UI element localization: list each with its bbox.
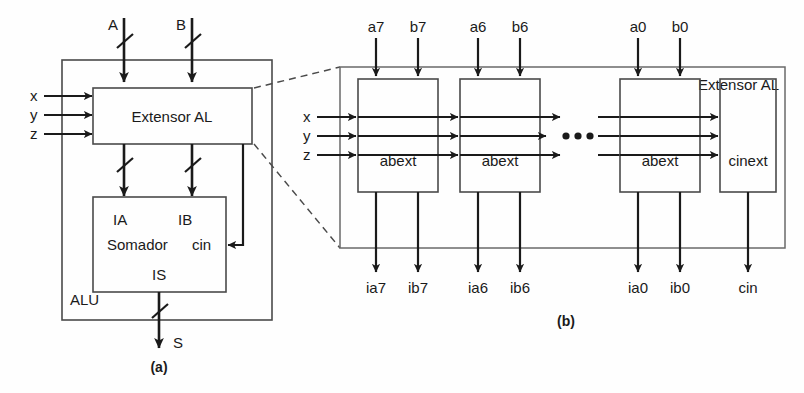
input-label-a7: a7 — [368, 18, 385, 35]
slice-6: abext a6 b6 ia6 ib6 — [460, 18, 540, 296]
input-label-z-a: z — [30, 125, 38, 142]
dashed-connector-top — [254, 67, 340, 88]
output-label-ib6: ib6 — [510, 279, 530, 296]
slice-7: abext a7 b7 ia7 ib7 — [358, 18, 438, 296]
output-label-ib7: ib7 — [408, 279, 428, 296]
extensor-al-label-a: Extensor AL — [132, 108, 213, 125]
output-label-ia7: ia7 — [366, 279, 386, 296]
output-label-cin: cin — [738, 279, 757, 296]
panel-b: Extensor AL x y z abext a7 b7 ia7 ib7 a — [303, 18, 785, 329]
input-label-a0: a0 — [630, 18, 647, 35]
input-label-x-b: x — [303, 108, 311, 125]
somador-port-ib: IB — [178, 211, 192, 228]
input-label-b7: b7 — [410, 18, 427, 35]
somador-port-is: IS — [152, 266, 166, 283]
dashed-connector-bottom — [254, 144, 340, 248]
caption-b: (b) — [557, 313, 575, 329]
panel-a: ALU A B Extensor AL x y z IA IB Somador … — [30, 16, 272, 375]
input-label-y-b: y — [303, 127, 311, 144]
output-label-ib0: ib0 — [670, 279, 690, 296]
slice-0: abext a0 b0 ia0 ib0 — [620, 18, 700, 296]
zoom-connectors — [254, 67, 340, 248]
ellipsis-dots — [562, 132, 593, 139]
input-label-z-b: z — [303, 146, 311, 163]
input-label-b0: b0 — [672, 18, 689, 35]
wire-cin-feedback — [228, 144, 243, 245]
input-label-b: B — [176, 16, 186, 33]
caption-a: (a) — [150, 359, 167, 375]
input-label-a6: a6 — [470, 18, 487, 35]
input-label-b6: b6 — [512, 18, 529, 35]
cinext-label: cinext — [728, 152, 768, 169]
alu-box-label: ALU — [70, 291, 99, 308]
output-label-ia6: ia6 — [468, 279, 488, 296]
input-label-y-a: y — [30, 106, 38, 123]
figure-alu-extensor-al: ALU A B Extensor AL x y z IA IB Somador … — [0, 0, 804, 393]
somador-port-ia: IA — [113, 211, 127, 228]
somador-label: Somador — [107, 236, 168, 253]
output-label-ia0: ia0 — [628, 279, 648, 296]
input-label-x-a: x — [30, 87, 38, 104]
output-label-s: S — [173, 334, 183, 351]
somador-port-cin: cin — [192, 236, 211, 253]
cinext-block: cinext cin — [720, 79, 776, 296]
input-label-a: A — [108, 16, 118, 33]
cinext-box — [720, 79, 776, 192]
